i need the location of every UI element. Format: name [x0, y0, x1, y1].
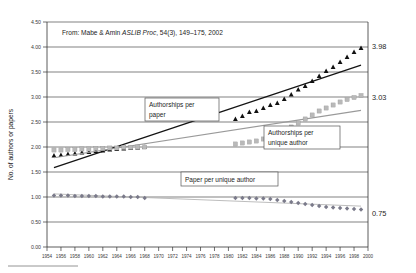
data-point	[94, 194, 98, 198]
callout-authorships-per-paper: Authorships per paper	[145, 98, 219, 121]
data-point	[282, 199, 286, 203]
x-tick-label-1994: 1994	[321, 254, 332, 259]
x-tick-label-2000: 2000	[363, 254, 374, 259]
data-point	[345, 55, 350, 59]
data-point	[303, 117, 307, 121]
callout-authorships-per-unique-author-line-2: unique author	[268, 139, 309, 147]
y-tick-4-50: 4.50	[31, 19, 41, 25]
end-label-authorships-per-unique-author: 3.03	[372, 93, 386, 102]
x-tick-label-1982: 1982	[237, 254, 248, 259]
data-point	[108, 146, 112, 150]
data-point	[324, 69, 329, 73]
x-tick-label-1972: 1972	[167, 254, 178, 259]
data-point	[352, 207, 356, 211]
data-point	[122, 194, 126, 198]
data-point	[296, 201, 300, 205]
chart-canvas: 4.50 4.00 3.50 3.00 2.50 2.00 1.50 1.00 …	[0, 0, 416, 273]
x-tick-label-1992: 1992	[307, 254, 318, 259]
data-point	[331, 65, 336, 69]
data-point	[261, 106, 266, 110]
data-point	[101, 194, 105, 198]
y-tick-2-50: 2.50	[31, 119, 41, 125]
data-point	[317, 109, 321, 113]
data-point	[331, 103, 335, 107]
callout-authorships-per-paper-line-2: paper	[149, 111, 166, 119]
x-tick-label-1960: 1960	[84, 254, 95, 259]
callout-authorships-per-unique-author-line-1: Authorships per	[268, 129, 314, 137]
data-point	[115, 146, 119, 150]
chart-figure: 4.50 4.00 3.50 3.00 2.50 2.00 1.50 1.00 …	[0, 0, 416, 273]
data-point	[233, 196, 237, 200]
x-tick-label-1964: 1964	[112, 254, 123, 259]
data-point	[136, 195, 140, 199]
x-tick-label-1966: 1966	[126, 254, 137, 259]
data-point	[268, 197, 272, 201]
source-note-italic: ASLIB Proc	[121, 29, 157, 36]
data-point	[303, 202, 307, 206]
data-point	[240, 114, 245, 118]
y-tick-2-00: 2.00	[31, 144, 41, 150]
data-point	[345, 206, 349, 210]
data-point	[142, 196, 146, 200]
y-tick-3-50: 3.50	[31, 69, 41, 75]
data-point	[129, 195, 133, 199]
x-tick-label-1970: 1970	[154, 254, 165, 259]
x-tick-label-1986: 1986	[265, 254, 276, 259]
y-tick-0-50: 0.50	[31, 219, 41, 225]
data-point	[338, 206, 342, 210]
x-tick-label-1976: 1976	[195, 254, 206, 259]
data-point	[108, 194, 112, 198]
data-point	[80, 194, 84, 198]
callout-authorships-per-unique-author: Authorships per unique author	[264, 126, 340, 149]
data-point	[310, 203, 314, 207]
data-point	[331, 205, 335, 209]
data-point	[289, 92, 294, 96]
data-point	[87, 194, 91, 198]
data-point	[324, 205, 328, 209]
data-point	[310, 113, 314, 117]
callout-authorships-per-paper-line-1: Authorships per	[149, 101, 195, 109]
x-tick-label-1958: 1958	[70, 254, 81, 259]
data-point	[136, 145, 140, 149]
y-tick-marks	[43, 22, 47, 247]
x-tick-label-1990: 1990	[293, 254, 304, 259]
data-point	[94, 146, 98, 150]
data-point	[129, 145, 133, 149]
x-tick-label-1978: 1978	[209, 254, 220, 259]
data-point	[52, 153, 57, 157]
series-paper-per-unique-author	[52, 193, 363, 211]
data-point	[80, 147, 84, 151]
x-tick-label-1998: 1998	[349, 254, 360, 259]
source-note-suffix: , 54(3), 149–175, 2002	[156, 29, 223, 37]
x-tick-label-1974: 1974	[181, 254, 192, 259]
x-tick-label-1996: 1996	[335, 254, 346, 259]
data-point	[352, 50, 357, 54]
data-point	[52, 148, 56, 152]
data-point	[324, 106, 328, 110]
data-point	[66, 147, 70, 151]
y-tick-labels: 4.50 4.00 3.50 3.00 2.50 2.00 1.50 1.00 …	[31, 19, 41, 250]
data-point	[247, 110, 252, 114]
data-point	[359, 46, 364, 50]
data-point	[275, 198, 279, 202]
x-tick-group: 1954195619581960196219641966196819701972…	[42, 247, 374, 259]
data-point	[247, 196, 251, 200]
data-point	[338, 60, 343, 64]
data-point	[240, 196, 244, 200]
callout-paper-per-unique-author: Paper per unique author	[181, 172, 278, 186]
x-tick-label-1984: 1984	[251, 254, 262, 259]
data-point	[143, 145, 147, 149]
data-point	[296, 121, 300, 125]
data-point	[233, 117, 238, 121]
x-tick-label-1980: 1980	[223, 254, 234, 259]
data-point	[359, 93, 363, 97]
end-label-authorships-per-paper: 3.98	[372, 42, 386, 51]
data-point	[359, 207, 363, 211]
data-point	[296, 87, 301, 91]
data-point	[101, 146, 105, 150]
data-point	[233, 142, 237, 146]
y-tick-1-00: 1.00	[31, 194, 41, 200]
data-point	[115, 194, 119, 198]
data-point	[268, 103, 273, 107]
data-point	[254, 109, 259, 113]
